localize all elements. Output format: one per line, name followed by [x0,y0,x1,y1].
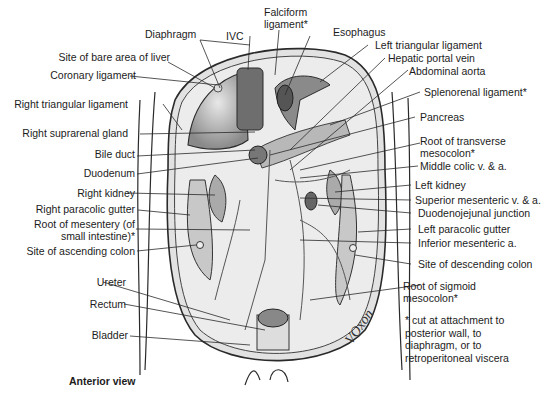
rectum-lumen [258,309,288,327]
label-splenorenal-ligament: Splenorenal ligament* [424,86,527,98]
label-ivc: IVC [226,30,244,42]
label-diaphragm: Diaphragm [145,28,196,40]
label-pancreas: Pancreas [420,111,464,123]
duodenojejunal-shape [305,192,317,210]
label-hepatic-portal-vein: Hepatic portal vein [388,52,475,64]
label-esophagus: Esophagus [333,26,386,38]
label-right-paracolic-gutter: Right paracolic gutter [36,203,135,215]
ascending-colon-marker [197,242,204,249]
descending-colon-marker [350,245,357,252]
label-right-kidney: Right kidney [77,187,135,199]
label-duodenum: Duodenum [84,167,135,179]
label-left-triangular-ligament: Left triangular ligament [375,39,482,51]
label-root-of-transverse-mesocolon: Root of transverse mesocolon* [420,135,506,159]
view-caption: Anterior view [69,375,136,387]
label-right-triangular-ligament: Right triangular ligament [14,98,128,110]
label-root-of-mesentery: Root of mesentery (of small intestine)* [34,218,135,242]
label-site-of-ascending-colon: Site of ascending colon [26,245,135,257]
label-bladder: Bladder [92,329,128,341]
ivc-shape [237,68,263,130]
label-coronary-ligament: Coronary ligament [50,69,136,81]
label-abdominal-aorta: Abdominal aorta [409,65,485,77]
label-duodenojejunal-junction: Duodenojejunal junction [418,207,530,219]
esophagus-lumen [277,85,293,111]
label-bile-duct: Bile duct [95,148,135,160]
label-left-kidney: Left kidney [415,179,466,191]
anatomy-figure: VOxon Diaphragm IVC Falciform ligament* … [0,0,548,397]
duodenum-shape [249,146,267,164]
label-ureter: Ureter [97,276,126,288]
label-site-of-descending-colon: Site of descending colon [418,258,532,270]
label-root-of-sigmoid-mesocolon: Root of sigmoid mesocolon* [403,280,476,304]
label-rectum: Rectum [90,298,126,310]
label-left-paracolic-gutter: Left paracolic gutter [418,223,510,235]
label-inferior-mesenteric: Inferior mesenteric a. [418,237,517,249]
footnote: * cut at attachment to posterior wall, t… [405,314,509,364]
label-superior-mesenteric: Superior mesenteric v. & a. [415,194,541,206]
bare-area-marker [214,84,222,92]
label-middle-colic: Middle colic v. & a. [420,160,507,172]
label-right-suprarenal-gland: Right suprarenal gland [22,127,128,139]
label-falciform-ligament: Falciform ligament* [264,6,308,30]
label-bare-area-of-liver: Site of bare area of liver [59,51,170,63]
